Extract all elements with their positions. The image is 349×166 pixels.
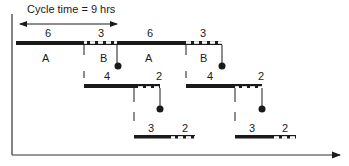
cycle-time-diagram: Cycle time = 9 hrs 6 3 6 3 A B A B 4 2 4…	[0, 0, 349, 166]
row1-stage-b2: B	[200, 52, 207, 64]
row1-bar-a1	[16, 41, 84, 45]
row2-bar-hatch-2	[235, 84, 262, 88]
row2-duration-2: 2	[156, 70, 162, 82]
row3-duration-4: 2	[282, 122, 288, 134]
row2-bar-hatch-1	[135, 84, 160, 88]
row2-duration-1: 4	[104, 70, 110, 82]
row1-duration-4: 3	[200, 27, 206, 39]
row1-stage-a1: A	[42, 52, 50, 64]
row2-duration-3: 4	[207, 70, 213, 82]
transfer-dot-icon	[115, 63, 122, 70]
row1-stage-b1: B	[100, 52, 107, 64]
cycle-time-label: Cycle time = 9 hrs	[27, 3, 116, 15]
transfer-dot-icon	[157, 106, 164, 113]
transfer-dot-icon	[219, 63, 226, 70]
row3-duration-1: 3	[148, 122, 154, 134]
row3-duration-3: 3	[249, 122, 255, 134]
transfer-dot-icon	[259, 106, 266, 113]
row3-bar-solid-2	[235, 135, 271, 139]
row-2: 4 2 4 2	[84, 70, 266, 113]
row1-duration-3: 6	[147, 27, 153, 39]
row2-bar-solid-1	[84, 84, 135, 88]
row3-bar-solid-1	[134, 135, 171, 139]
row1-stage-a2: A	[145, 52, 153, 64]
row-1: 6 3 6 3 A B A B	[16, 27, 226, 70]
row1-duration-1: 6	[45, 27, 51, 39]
row3-duration-2: 2	[182, 122, 188, 134]
row1-duration-2: 3	[98, 27, 104, 39]
row3-bar-hatch-1	[171, 135, 195, 139]
row1-bar-a2	[117, 41, 186, 45]
row1-bar-b2	[186, 41, 222, 45]
row2-bar-solid-2	[186, 84, 235, 88]
row3-bar-hatch-2	[271, 135, 296, 139]
row-3: 3 2 3 2	[134, 112, 296, 139]
row2-duration-4: 2	[258, 70, 264, 82]
row1-bar-b1	[84, 41, 117, 45]
